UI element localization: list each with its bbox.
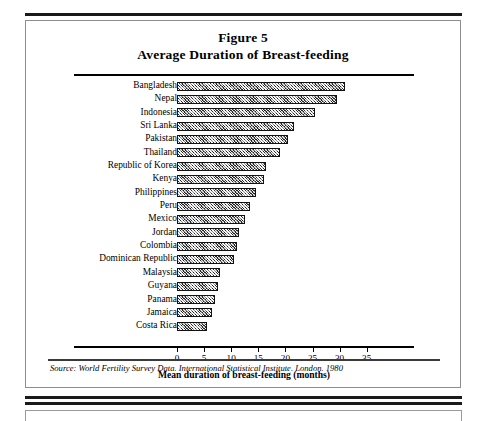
bar-chart-plot: BangladeshNepalIndonesiaSri LankaPakista… [26,21,462,389]
bar-category-label: Jordan [37,227,177,238]
x-tick-label: 10 [219,353,243,363]
source-divider-rule [48,359,440,361]
bar-category-label: Republic of Korea [37,160,177,171]
top-decorative-rule [25,13,462,16]
bar [177,268,220,277]
x-tick-label: 0 [165,353,189,363]
bar-category-label: Guyana [37,280,177,291]
x-tick-label: 5 [192,353,216,363]
bar-row: Colombia [26,240,462,253]
bar-rows: BangladeshNepalIndonesiaSri LankaPakista… [26,80,462,334]
bar-category-label: Panama [37,294,177,305]
bar-row: Mexico [26,213,462,226]
bar [177,215,245,224]
bar-category-label: Colombia [37,240,177,251]
x-tick-mark [231,348,232,352]
bar-row: Jamaica [26,307,462,320]
bar [177,228,239,237]
bar-category-label: Bangladesh [37,80,177,91]
bar-category-label: Peru [37,200,177,211]
next-page-frame-left [25,410,26,421]
x-tick-mark [367,348,368,352]
bar [177,322,207,331]
bar-category-label: Thailand [37,147,177,158]
bar-row: Peru [26,200,462,213]
bottom-decorative-rule-1 [25,396,462,399]
bar [177,82,345,91]
bar-row: Indonesia [26,107,462,120]
bar-row: Kenya [26,173,462,186]
x-tick-label: 30 [328,353,352,363]
x-tick-mark [258,348,259,352]
next-page-frame-right [461,410,462,421]
bar [177,135,288,144]
bar-category-label: Nepal [37,93,177,104]
bar-row: Costa Rica [26,320,462,333]
source-note: Source: World Fertility Survey Data. Int… [50,363,343,373]
bar-row: Malaysia [26,267,462,280]
bar [177,282,218,291]
x-tick-label: 25 [301,353,325,363]
bar [177,148,280,157]
bar [177,108,315,117]
bar-category-label: Dominican Republic [37,253,177,264]
bar [177,202,250,211]
bar-category-label: Indonesia [37,107,177,118]
x-tick-mark [204,348,205,352]
bar-row: Nepal [26,93,462,106]
bar-category-label: Malaysia [37,267,177,278]
bar-category-label: Sri Lanka [37,120,177,131]
bar-category-label: Pakistan [37,133,177,144]
bar-category-label: Philippines [37,187,177,198]
bar-category-label: Costa Rica [37,320,177,331]
figure-frame: Figure 5 Average Duration of Breast-feed… [25,20,461,388]
x-tick-label: 35 [355,353,379,363]
x-tick-mark [313,348,314,352]
bar-row: Guyana [26,280,462,293]
bar-row: Dominican Republic [26,253,462,266]
bar [177,122,294,131]
x-tick-mark [285,348,286,352]
figure-page: Figure 5 Average Duration of Breast-feed… [0,0,488,421]
bar-row: Thailand [26,147,462,160]
bar-row: Jordan [26,227,462,240]
bar-row: Pakistan [26,133,462,146]
bar-row: Panama [26,294,462,307]
bar [177,188,256,197]
bar-row: Sri Lanka [26,120,462,133]
bar-row: Republic of Korea [26,160,462,173]
x-tick-label: 15 [246,353,270,363]
next-page-frame-edge [25,410,462,411]
bar [177,162,266,171]
bar [177,175,264,184]
bar-category-label: Mexico [37,213,177,224]
x-tick-mark [340,348,341,352]
x-tick-label: 20 [273,353,297,363]
bar-row: Bangladesh [26,80,462,93]
bar-category-label: Jamaica [37,307,177,318]
bar [177,255,234,264]
bar-category-label: Kenya [37,173,177,184]
bar [177,95,337,104]
bar [177,242,237,251]
bottom-decorative-rule-2 [25,402,462,405]
bar [177,295,215,304]
x-tick-mark [177,348,178,352]
bar [177,308,212,317]
bar-row: Philippines [26,187,462,200]
